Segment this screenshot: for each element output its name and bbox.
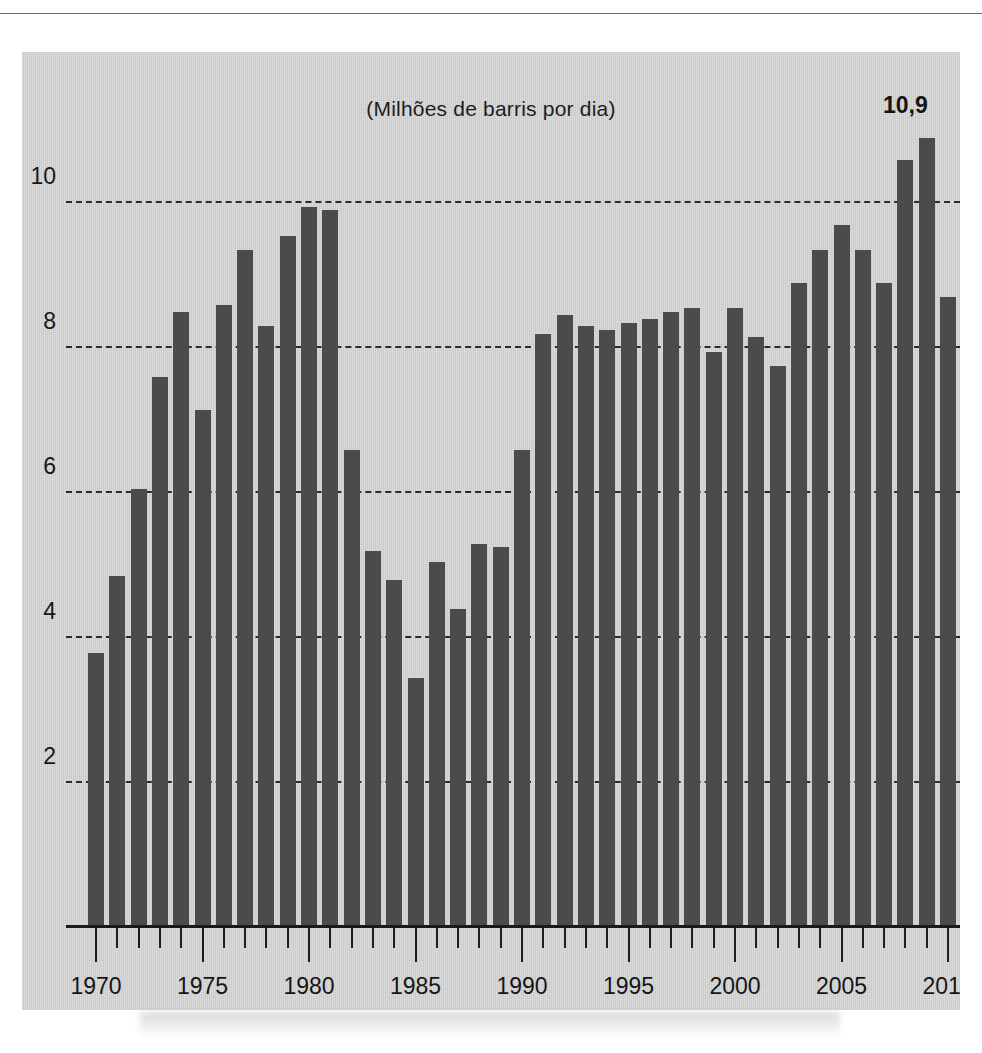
bar-1985: [408, 678, 424, 928]
x-axis-tick-1974: [180, 928, 182, 948]
x-axis-tick-1995: [628, 928, 630, 962]
x-axis-label-1980: 1980: [283, 973, 334, 1000]
x-axis-tick-2005: [841, 928, 843, 962]
y-axis-tick-label: 2: [43, 743, 56, 770]
x-axis-tick-2006: [862, 928, 864, 948]
x-axis-tick-1978: [265, 928, 267, 948]
x-axis-tick-1997: [670, 928, 672, 948]
x-axis-tick-1989: [500, 928, 502, 948]
bar-1975: [195, 410, 211, 928]
x-axis-tick-2000: [734, 928, 736, 962]
x-axis-tick-1990: [521, 928, 523, 962]
chart-title: (Milhões de barris por dia): [22, 97, 960, 121]
x-axis-label-1970: 1970: [70, 973, 121, 1000]
x-axis-tick-1979: [287, 928, 289, 948]
bar-1986: [429, 562, 445, 928]
x-axis-tick-2010: [947, 928, 949, 962]
bar-2003: [791, 283, 807, 928]
x-axis-tick-1970: [95, 928, 97, 962]
bar-2002: [770, 366, 786, 928]
chart-figure-panel: (Milhões de barris por dia) 10,9 1970197…: [22, 52, 960, 1010]
x-axis-tick-1973: [159, 928, 161, 948]
bar-1992: [557, 315, 573, 928]
bar-2010: [940, 297, 956, 928]
x-axis-tick-2007: [883, 928, 885, 948]
bar-1993: [578, 326, 594, 928]
x-axis-tick-2002: [777, 928, 779, 948]
x-axis-tick-1991: [542, 928, 544, 948]
x-axis-tick-1977: [244, 928, 246, 948]
bar-1990: [514, 450, 530, 929]
x-axis-tick-1994: [606, 928, 608, 948]
bar-2009: [919, 138, 935, 928]
x-axis-label-1990: 1990: [496, 973, 547, 1000]
x-axis-label-2000: 2000: [709, 973, 760, 1000]
bar-2001: [748, 337, 764, 928]
x-axis-tick-1993: [585, 928, 587, 948]
bar-1995: [621, 323, 637, 928]
bar-1970: [88, 653, 104, 929]
x-axis-tick-1980: [308, 928, 310, 962]
bar-2007: [876, 283, 892, 928]
x-axis-tick-1986: [436, 928, 438, 948]
y-axis-tick-label: 10: [30, 163, 56, 190]
y-axis-tick-label: 8: [43, 308, 56, 335]
x-axis-tick-1972: [138, 928, 140, 948]
x-axis-tick-2003: [798, 928, 800, 948]
bar-1977: [237, 250, 253, 928]
bar-1974: [173, 312, 189, 928]
bar-1981: [322, 210, 338, 928]
x-axis-tick-1985: [415, 928, 417, 962]
x-axis-tick-2008: [904, 928, 906, 948]
bar-1979: [280, 236, 296, 928]
x-axis-tick-1982: [351, 928, 353, 948]
bar-1984: [386, 580, 402, 928]
x-axis-tick-1975: [202, 928, 204, 962]
x-axis-label-1985: 1985: [390, 973, 441, 1000]
bar-1982: [344, 450, 360, 929]
x-axis-tick-1976: [223, 928, 225, 948]
bar-1976: [216, 305, 232, 929]
x-axis-tick-2001: [755, 928, 757, 948]
bar-1972: [131, 489, 147, 928]
x-axis-label-2005: 2005: [816, 973, 867, 1000]
scan-artifact: [140, 1012, 840, 1038]
bar-1996: [642, 319, 658, 928]
bar-2006: [855, 250, 871, 928]
plot-area: 197019751980198519901995200020052010 246…: [66, 52, 960, 1010]
bar-2005: [834, 225, 850, 928]
x-axis-tick-1988: [478, 928, 480, 948]
bar-2000: [727, 308, 743, 928]
bar-1989: [493, 547, 509, 928]
x-axis-label-1995: 1995: [603, 973, 654, 1000]
x-axis-tick-1992: [564, 928, 566, 948]
x-axis-tick-2004: [819, 928, 821, 948]
x-axis-label-1975: 1975: [177, 973, 228, 1000]
bar-2004: [812, 250, 828, 928]
bar-1987: [450, 609, 466, 928]
bar-1998: [684, 308, 700, 928]
bar-1988: [471, 544, 487, 928]
bar-1978: [258, 326, 274, 928]
x-axis-tick-1987: [457, 928, 459, 948]
x-axis-tick-1981: [329, 928, 331, 948]
x-axis-tick-1984: [393, 928, 395, 948]
peak-value-annotation: 10,9: [883, 92, 928, 119]
x-axis-tick-1983: [372, 928, 374, 948]
bar-1971: [109, 576, 125, 928]
bar-1999: [706, 352, 722, 928]
y-axis-tick-label: 4: [43, 598, 56, 625]
bar-1997: [663, 312, 679, 928]
bar-1973: [152, 377, 168, 928]
x-axis-tick-1999: [713, 928, 715, 948]
x-axis-tick-1998: [691, 928, 693, 948]
bar-1980: [301, 207, 317, 928]
x-axis-tick-2009: [926, 928, 928, 948]
gridline-10: [66, 201, 960, 203]
bar-1983: [365, 551, 381, 928]
x-axis-label-2010: 2010: [922, 973, 960, 1000]
x-axis-tick-1996: [649, 928, 651, 948]
page-top-rule: [0, 13, 982, 14]
x-axis-tick-1971: [116, 928, 118, 948]
bar-1991: [535, 334, 551, 929]
